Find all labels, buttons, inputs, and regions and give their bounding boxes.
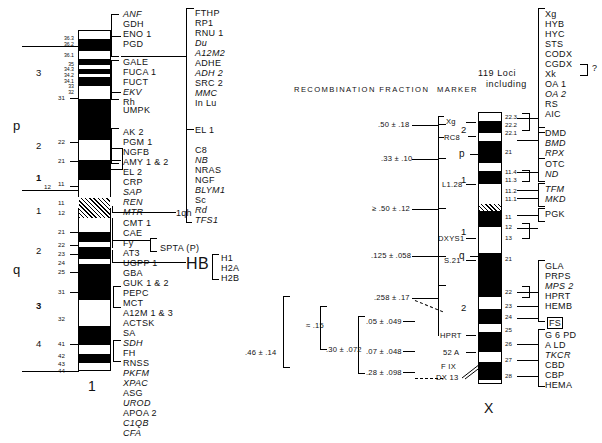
chromosome-1-p-region-1: 1	[36, 172, 41, 183]
marker-Xg: Xg	[446, 117, 456, 126]
locus-MPS2: MPS 2	[545, 281, 574, 291]
chromosome-1-p-subbands: 36.3 36.2 36.1 35 34.3 34.2 34.1 33 32	[52, 36, 74, 95]
marker-52A: 52 A	[443, 348, 459, 357]
locus-RS: RS	[545, 99, 572, 109]
locus-ALD: A LD	[545, 340, 576, 350]
gene-ADH2: ADH 2	[195, 68, 225, 78]
chromosome-x-qband-22: 22	[505, 288, 512, 295]
gene-SRC2: SRC 2	[195, 78, 225, 88]
locus-TFM: TFM	[545, 184, 566, 194]
chromosome-1-q-region-1: 1	[36, 205, 41, 216]
gene-ASG: ASG	[123, 388, 157, 398]
gene-FUCT: FUCT	[123, 77, 156, 87]
chromosome-x-band-11-3: 11.3	[505, 176, 517, 183]
gene-PGM1: PGM 1	[123, 137, 169, 147]
chromosome-1-q-band-32: 32	[58, 315, 65, 322]
chromosome-1-q-region-2: 2	[36, 245, 41, 256]
chromosome-x-qband-23: 23	[505, 302, 512, 309]
locus-FS: FS	[547, 317, 563, 329]
gene-ENO1: ENO 1	[123, 29, 152, 39]
chr1-gene-group-6: GBA GUK 1 & 2 PEPC MCT A12M 1 & 3 ACTSK …	[123, 268, 173, 358]
chr1-spta-bracket	[150, 238, 157, 252]
gene-H2B: H2B	[221, 273, 239, 283]
chromosome-1-q-band-12: 12	[58, 209, 65, 216]
chr1-histone-members: H1 H2A H2B	[221, 253, 239, 283]
gene-GBA: GBA	[123, 268, 173, 278]
chromosome-1-p-band-31: 31	[58, 94, 65, 101]
chromosome-x-band-11-2: 11.2	[505, 187, 517, 194]
gene-RNSS: RNSS	[123, 358, 157, 368]
gene-UROD: UROD	[123, 398, 157, 408]
locus-STS: STS	[545, 39, 572, 49]
gene-H1: H1	[221, 253, 239, 263]
gene-CMT1: CMT 1	[123, 218, 158, 228]
rf-value-9: .30 ± .072	[326, 345, 362, 354]
gene-NB: NB	[195, 155, 225, 165]
chromosome-x-band-22-2: 22.2	[505, 121, 517, 128]
locus-HEMB: HEMB	[545, 301, 574, 311]
cgdx-query-marker: ?	[592, 63, 597, 73]
locus-CODX: CODX	[545, 49, 572, 59]
rf-value-0: .50 ± .18	[378, 120, 409, 129]
xloci-bracket-1	[538, 8, 545, 133]
gene-Sc: Sc	[195, 195, 225, 205]
chromosome-x-loci-list-3: OTC ND	[545, 159, 565, 179]
chromosome-1-p-region-3: 3	[36, 67, 41, 78]
loci-count-line1: 119 Loci	[478, 68, 516, 78]
chromosome-x-band-11-1: 11.1	[505, 195, 517, 202]
chromosome-x-p-ideogram	[478, 112, 502, 211]
rf-value-4: .258 ± .17	[374, 293, 410, 302]
gene-XPAC: XPAC	[123, 378, 157, 388]
chromosome-1-q-region-3: 3	[36, 300, 41, 311]
xloci-bracket-3	[538, 158, 545, 182]
fix-dx13-connector	[460, 358, 482, 380]
gene-GDH: GDH	[123, 19, 152, 29]
marker-FIX: F IX	[441, 362, 456, 371]
gene-RP1: RP1	[195, 18, 225, 28]
gene-AMY1-2: AMY 1 & 2	[123, 157, 169, 167]
gene-FH: FH	[123, 348, 173, 358]
locus-ND: ND	[545, 169, 565, 179]
chr1-midcol-group-2: EL 1	[195, 125, 214, 135]
marker-L128: L1.28	[442, 180, 463, 189]
locus-BMD: BMD	[545, 138, 566, 148]
gene-APOA2: APOA 2	[123, 408, 157, 418]
chromosome-x-q-region-2: 2	[461, 302, 466, 313]
chromosome-1-p-band-22: 22	[58, 138, 65, 145]
gene-SAP: SAP	[123, 187, 169, 197]
chromosome-1-q-band-43: 43	[58, 360, 65, 367]
chromosome-1-p-band-11: 11	[58, 180, 64, 187]
chromosome-1-label: 1	[88, 378, 96, 394]
marker-HPRT: HPRT	[440, 331, 462, 340]
chromosome-x-qband-24: 24	[505, 313, 512, 320]
chromosome-1-p-ideogram	[78, 30, 111, 197]
chromosome-1-q-arm-label: q	[13, 262, 20, 277]
gene-NGFB: NGFB	[123, 147, 169, 157]
chromosome-1-p-band-21: 21	[58, 157, 65, 164]
gene-SPTA: SPTA (P)	[160, 243, 199, 253]
locus-OA1: OA 1	[545, 79, 572, 89]
locus-HYB: HYB	[545, 19, 572, 29]
xband-bracket-22q	[522, 286, 530, 298]
locus-HYC: HYC	[545, 29, 572, 39]
chr1-midcol-group-1: FTHP RP1 RNU 1 Du A12M2 ADHE ADH 2 SRC 2…	[195, 8, 225, 108]
gene-PEPC: PEPC	[123, 288, 173, 298]
rf-value-1: .33 ± .10	[381, 154, 412, 163]
locus-PGK: PGK	[545, 209, 565, 219]
chr1-gene-group-4: AK 2 PGM 1 NGFB AMY 1 & 2 EL 2 CRP SAP R…	[123, 127, 169, 217]
locus-CBD: CBD	[545, 360, 576, 370]
chromosome-1-q-band-25: 25	[58, 268, 65, 275]
chromosome-x-loci-list: Xg HYB HYC STS CODX CGDX Xk OA 1 OA 2 RS…	[545, 9, 572, 119]
rf-value-7: .28 ± .098	[366, 368, 402, 377]
chr1-gene-bracket-6a	[113, 286, 121, 308]
locus-G6PD: G 6 PD	[545, 330, 576, 340]
chromosome-x-loci-list-2: DMD BMD RPX	[545, 128, 566, 158]
chr1-midcol-bracket	[186, 8, 194, 130]
locus-Xg: Xg	[545, 9, 572, 19]
gene-NRAS: NRAS	[195, 165, 225, 175]
xband-bracket-22	[522, 113, 530, 131]
chr1-gene-group-2: GALE FUCA 1 FUCT EKV Rh	[123, 57, 156, 107]
chromosome-x-qband-27: 27	[505, 356, 512, 363]
marker-DXYS1: DXYS1	[438, 234, 464, 243]
locus-TKCR: TKCR	[545, 350, 576, 360]
